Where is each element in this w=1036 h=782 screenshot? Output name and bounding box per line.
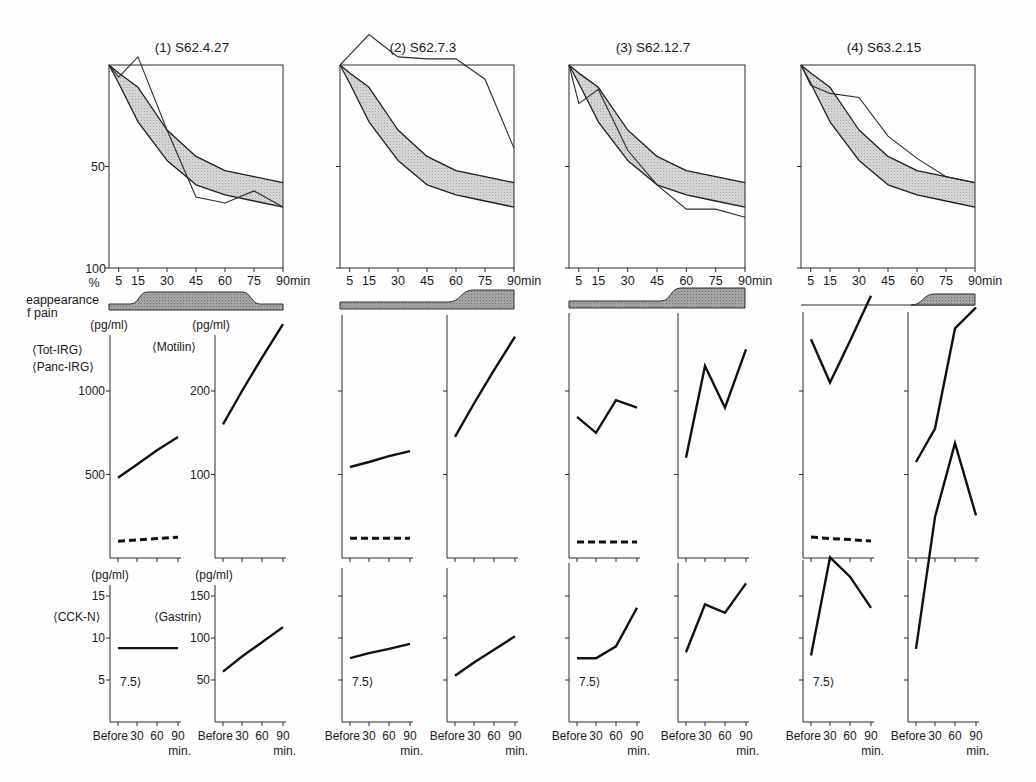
case-column-3: (3) S62.12.75153045607590minBefore306090… bbox=[552, 40, 773, 758]
pain-bar-shape bbox=[109, 292, 283, 310]
x-tick-label: 30 bbox=[698, 729, 712, 743]
cck-n-detection-note: 7.5⟩ bbox=[579, 675, 600, 689]
tot-irg-line bbox=[811, 296, 871, 383]
x-tick-label: 60 bbox=[255, 729, 269, 743]
gastrin-unit-label: (pg/ml) bbox=[195, 568, 232, 582]
gastric-emptying-chart: 5153045607590min bbox=[797, 65, 1002, 288]
reappearance-of-pain-bar bbox=[109, 292, 283, 310]
gastric-emptying-chart: 5153045607590min bbox=[105, 57, 310, 288]
reappearance-of-pain-bar bbox=[340, 290, 514, 309]
y-tick-label-100: 100 bbox=[85, 262, 106, 276]
x-tick-label: 30 bbox=[928, 729, 942, 743]
gastrin-line bbox=[455, 636, 515, 676]
y-tick-label: 15 bbox=[92, 589, 106, 603]
normal-range-band bbox=[109, 65, 283, 207]
x-unit-label: min. bbox=[627, 744, 650, 758]
x-tick-label: 90 bbox=[507, 274, 521, 288]
x-tick-label: 90 bbox=[738, 274, 752, 288]
motilin-chart bbox=[904, 308, 979, 563]
tot-irg-line bbox=[577, 400, 637, 433]
cck-n-line bbox=[811, 557, 871, 655]
x-unit-label: min bbox=[290, 274, 310, 288]
case-title: (1) S62.4.27 bbox=[155, 40, 229, 55]
motilin-line bbox=[455, 337, 515, 437]
cck-n-line bbox=[577, 608, 637, 658]
motilin-label: ⟨Motilin⟩ bbox=[152, 340, 196, 354]
x-tick-label: 90 bbox=[508, 729, 522, 743]
motilin-unit-label: (pg/ml) bbox=[192, 318, 229, 332]
reappearance-of-pain-bar bbox=[569, 288, 745, 308]
x-tick-label: 30 bbox=[160, 274, 174, 288]
tot-irg-line bbox=[118, 437, 178, 478]
x-tick-label: 60 bbox=[948, 729, 962, 743]
motilin-chart bbox=[443, 315, 518, 562]
pain-bar-shape bbox=[569, 288, 745, 308]
y-tick-label: 5 bbox=[98, 673, 105, 687]
cck-n-detection-note: 7.5⟩ bbox=[813, 675, 834, 689]
x-tick-label: 75 bbox=[247, 274, 261, 288]
irg-chart bbox=[799, 296, 874, 562]
x-tick-label-before: Before bbox=[891, 729, 927, 743]
y-tick-label: 500 bbox=[85, 468, 105, 482]
x-tick-label-before: Before bbox=[552, 729, 588, 743]
x-tick-label: 60 bbox=[382, 729, 396, 743]
x-tick-label: 30 bbox=[467, 729, 481, 743]
x-tick-label: 90 bbox=[276, 274, 290, 288]
case-columns: (1) S62.4.275153045607590min100050020010… bbox=[78, 35, 1002, 759]
gastrin-line bbox=[223, 627, 283, 672]
x-tick-label: 75 bbox=[709, 274, 723, 288]
x-tick-label: 45 bbox=[650, 274, 664, 288]
x-unit-label: min. bbox=[966, 744, 989, 758]
cck-n-unit-label: (pg/ml) bbox=[91, 568, 128, 582]
x-tick-label: 60 bbox=[679, 274, 693, 288]
gastrin-chart: 15010050Before306090min. bbox=[190, 585, 296, 758]
case-title: (4) S63.2.15 bbox=[847, 40, 921, 55]
x-tick-label: 5 bbox=[575, 274, 582, 288]
case-title: (2) S62.7.3 bbox=[390, 40, 457, 55]
x-tick-label: 90 bbox=[276, 729, 290, 743]
motilin-chart: 200100 bbox=[190, 324, 286, 562]
pain-bar-shape bbox=[911, 294, 975, 305]
cck-n-detection-note: 7.5⟩ bbox=[352, 675, 373, 689]
tot-irg-line bbox=[350, 451, 410, 467]
x-tick-label: 90 bbox=[171, 729, 185, 743]
case-column-2: (2) S62.7.35153045607590minBefore306090m… bbox=[325, 35, 542, 759]
x-tick-label: 60 bbox=[218, 274, 232, 288]
x-tick-label: 30 bbox=[823, 729, 837, 743]
gastrin-chart: Before306090min. bbox=[891, 443, 989, 758]
x-unit-label: min. bbox=[273, 744, 296, 758]
cck-n-chart: Before306090min. bbox=[552, 563, 650, 758]
y-tick-label: 50 bbox=[197, 673, 211, 687]
gastric-emptying-chart: 5153045607590min bbox=[565, 65, 772, 288]
x-tick-label: 90 bbox=[403, 729, 417, 743]
x-tick-label: 15 bbox=[362, 274, 376, 288]
pain-bar-shape bbox=[340, 290, 514, 309]
irg-chart bbox=[338, 315, 413, 562]
gastrin-chart: Before306090min. bbox=[430, 568, 528, 758]
x-tick-label: 30 bbox=[391, 274, 405, 288]
tot-irg-label: ⟨Tot-IRG⟩ bbox=[32, 343, 83, 357]
irg-unit-label: (pg/ml) bbox=[90, 318, 127, 332]
cck-n-line bbox=[350, 644, 410, 658]
x-tick-label: 90 bbox=[630, 729, 644, 743]
x-tick-label: 75 bbox=[939, 274, 953, 288]
x-tick-label: 15 bbox=[823, 274, 837, 288]
x-tick-label: 90 bbox=[968, 274, 982, 288]
x-tick-label: 30 bbox=[130, 729, 144, 743]
irg-chart bbox=[565, 313, 640, 562]
x-tick-label: 30 bbox=[621, 274, 635, 288]
pain-label-line2: f pain bbox=[27, 306, 58, 320]
x-tick-label: 15 bbox=[131, 274, 145, 288]
x-tick-label: 90 bbox=[739, 729, 753, 743]
gastrin-line bbox=[916, 443, 976, 649]
x-tick-label: 90 bbox=[969, 729, 983, 743]
y-unit-percent: % bbox=[88, 276, 99, 290]
y-tick-label: 10 bbox=[92, 631, 106, 645]
x-unit-label: min bbox=[752, 274, 772, 288]
x-tick-label: 75 bbox=[478, 274, 492, 288]
x-tick-label: 60 bbox=[843, 729, 857, 743]
x-tick-label: 60 bbox=[609, 729, 623, 743]
cck-n-chart: Before306090min. bbox=[325, 568, 423, 758]
case-title: (3) S62.12.7 bbox=[616, 40, 690, 55]
x-tick-label: 30 bbox=[362, 729, 376, 743]
